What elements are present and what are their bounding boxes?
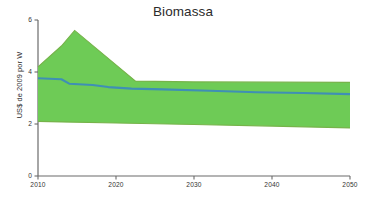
y-axis-tick-label: 4	[8, 68, 32, 75]
uncertainty-band-area	[38, 30, 350, 128]
y-axis-tick-label: 6	[8, 16, 32, 23]
x-axis-tick-label: 2030	[178, 181, 210, 188]
x-axis-tick-label: 2010	[22, 181, 54, 188]
y-axis-tick-label: 0	[8, 172, 32, 179]
biomassa-chart-figure: Biomassa US$ de 2009 por W 0246201020202…	[0, 0, 366, 208]
x-axis-tick-label: 2050	[334, 181, 366, 188]
x-axis-tick-label: 2020	[100, 181, 132, 188]
plot-area	[0, 0, 366, 208]
y-axis-tick-label: 2	[8, 120, 32, 127]
data-group	[38, 30, 350, 128]
x-axis-tick-label: 2040	[256, 181, 288, 188]
